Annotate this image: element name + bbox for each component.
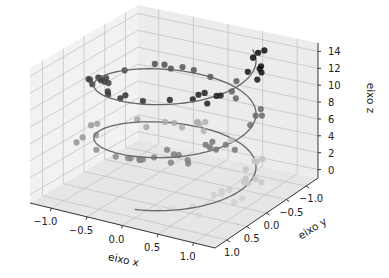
- scatter-point: [201, 128, 207, 134]
- scatter-point: [113, 153, 119, 159]
- z-tick-label: 12: [328, 63, 341, 74]
- 3d-chart: −1.0−0.50.00.51.0−1.0−0.50.00.51.0024681…: [0, 0, 389, 278]
- scatter-point: [105, 80, 111, 86]
- scatter-point: [226, 187, 232, 193]
- scatter-point: [196, 122, 202, 128]
- scatter-point: [93, 147, 99, 153]
- z-tick-label: 10: [328, 80, 341, 91]
- z-tick-label: 0: [328, 165, 334, 176]
- scatter-point: [207, 144, 213, 150]
- scatter-point: [256, 66, 262, 72]
- scatter-point: [87, 77, 93, 83]
- 3d-plot-canvas: −1.0−0.50.00.51.0−1.0−0.50.00.51.0024681…: [0, 0, 389, 278]
- scatter-point: [259, 112, 265, 118]
- y-tick-label: 1.0: [224, 247, 240, 258]
- scatter-point: [261, 47, 267, 53]
- z-tick-label: 14: [328, 46, 341, 57]
- scatter-point: [245, 69, 251, 75]
- x-tick-label: 0.0: [109, 234, 125, 245]
- scatter-point: [204, 100, 210, 106]
- scatter-point: [232, 147, 238, 153]
- scatter-point: [196, 212, 202, 218]
- scatter-point: [211, 192, 217, 198]
- scatter-point: [243, 166, 249, 172]
- scatter-point: [202, 90, 208, 96]
- z-tick-label: 8: [328, 97, 334, 108]
- scatter-point: [229, 137, 235, 143]
- x-tick-label: 1.0: [180, 251, 196, 262]
- scatter-point: [162, 119, 168, 125]
- scatter-point: [164, 147, 170, 153]
- scatter-point: [251, 158, 257, 164]
- scatter-point: [105, 88, 111, 94]
- scatter-point: [167, 97, 173, 103]
- scatter-point: [202, 119, 208, 125]
- y-axis-label: eixo y: [296, 215, 329, 242]
- z-axis-label: eixo z: [365, 83, 377, 114]
- scatter-point: [152, 61, 158, 67]
- scatter-point: [168, 159, 174, 165]
- scatter-point: [179, 124, 185, 130]
- scatter-point: [233, 95, 239, 101]
- scatter-point: [149, 208, 155, 214]
- scatter-point: [161, 62, 167, 68]
- scatter-point: [171, 120, 177, 126]
- scatter-point: [252, 176, 258, 182]
- y-tick-label: 0.5: [244, 233, 260, 244]
- scatter-point: [259, 156, 265, 162]
- scatter-point: [213, 146, 219, 152]
- x-tick-label: −0.5: [69, 225, 93, 236]
- scatter-point: [258, 106, 264, 112]
- y-tick-label: −1.0: [299, 193, 323, 204]
- x-tick-label: −1.0: [33, 216, 57, 227]
- scatter-point: [191, 67, 197, 73]
- scatter-point: [239, 195, 245, 201]
- scatter-point: [143, 124, 149, 130]
- scatter-point: [207, 74, 213, 80]
- z-tick-label: 6: [328, 114, 334, 125]
- scatter-point: [231, 199, 237, 205]
- scatter-point: [233, 78, 239, 84]
- x-axis-label: eixo x: [107, 250, 140, 268]
- scatter-point: [168, 65, 174, 71]
- scatter-point: [88, 122, 94, 128]
- scatter-point: [258, 179, 264, 185]
- scatter-point: [255, 50, 261, 56]
- scatter-point: [253, 113, 259, 119]
- scatter-point: [218, 92, 224, 98]
- scatter-point: [140, 98, 146, 104]
- scatter-point: [242, 176, 248, 182]
- scatter-point: [247, 122, 253, 128]
- z-tick-label: 2: [328, 148, 334, 159]
- scatter-point: [80, 134, 86, 140]
- y-tick-label: −0.5: [279, 207, 303, 218]
- scatter-point: [223, 142, 229, 148]
- scatter-point: [179, 64, 185, 70]
- scatter-point: [73, 139, 79, 145]
- scatter-point: [229, 88, 235, 94]
- scatter-point: [185, 161, 191, 167]
- scatter-point: [250, 55, 256, 61]
- scatter-point: [94, 121, 100, 127]
- scatter-point: [254, 77, 260, 83]
- scatter-point: [218, 191, 224, 197]
- y-tick-label: 0.0: [264, 220, 280, 231]
- scatter-point: [195, 92, 201, 98]
- x-tick-label: 0.5: [144, 242, 160, 253]
- z-tick-label: 4: [328, 131, 334, 142]
- scatter-point: [209, 139, 215, 145]
